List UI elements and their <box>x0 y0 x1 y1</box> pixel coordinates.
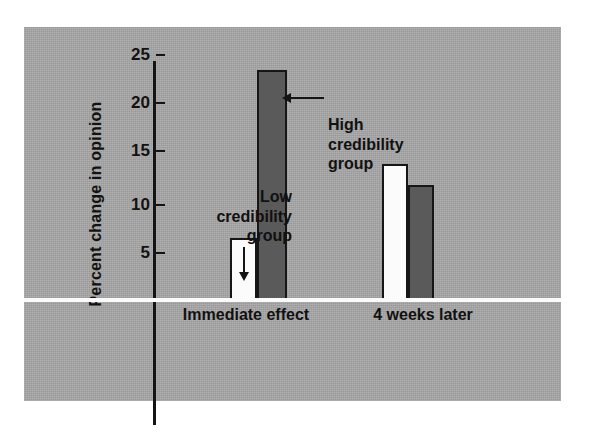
y-tick-label-10: 10 <box>24 195 150 215</box>
y-tick-label-25: 25 <box>24 45 150 65</box>
y-tick-5 <box>156 252 165 254</box>
low-credibility-callout: Low credibility group <box>144 187 292 246</box>
low-callout-line-3: group <box>144 226 292 246</box>
category-label-four-weeks-later: 4 weeks later <box>348 306 498 324</box>
high-callout-line-2: credibility <box>328 135 458 155</box>
y-tick-label-15: 15 <box>24 141 150 161</box>
high-callout-arrow-head <box>282 93 291 103</box>
high-callout-arrow-shaft <box>288 97 324 99</box>
immediate-effect-dark-bar <box>257 70 287 302</box>
y-tick-25 <box>156 54 165 56</box>
y-tick-15 <box>156 150 165 152</box>
high-callout-line-3: group <box>328 154 458 174</box>
zero-baseline <box>24 298 561 302</box>
y-tick-label-5: 5 <box>24 243 150 263</box>
high-credibility-callout: High credibility group <box>328 115 458 174</box>
four-weeks-later-light-bar <box>382 164 408 302</box>
y-tick-label-20: 20 <box>24 93 150 113</box>
low-callout-arrow-head <box>239 272 249 281</box>
chart-panel: Percent change in opinion 25 20 15 10 5 … <box>24 27 561 401</box>
category-label-immediate-effect: Immediate effect <box>172 306 320 324</box>
four-weeks-later-dark-bar <box>408 185 434 302</box>
y-tick-20 <box>156 102 165 104</box>
high-callout-line-1: High <box>328 115 458 135</box>
low-callout-line-2: credibility <box>144 207 292 227</box>
chart-figure: Percent change in opinion 25 20 15 10 5 … <box>0 0 593 436</box>
low-callout-line-1: Low <box>144 187 292 207</box>
low-callout-arrow-shaft <box>243 247 245 275</box>
